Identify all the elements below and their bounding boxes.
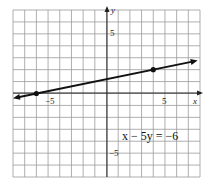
- point-1: [34, 91, 39, 96]
- x-tick-5: 5: [162, 96, 167, 106]
- equation-label: x − 5y = −6: [122, 129, 178, 144]
- y-tick-5: 5: [110, 28, 115, 38]
- y-axis-label: y: [111, 5, 115, 15]
- y-tick-neg5: −5: [109, 148, 119, 158]
- graph-line: [17, 61, 194, 97]
- line-arrow-right-icon: [190, 59, 197, 65]
- line-arrow-left-icon: [13, 94, 20, 100]
- x-axis-label: x: [193, 96, 197, 106]
- point-2: [151, 67, 156, 72]
- x-tick-neg5: −5: [45, 96, 55, 106]
- coordinate-grid: [0, 0, 210, 190]
- y-axis-arrow-icon: [105, 6, 110, 12]
